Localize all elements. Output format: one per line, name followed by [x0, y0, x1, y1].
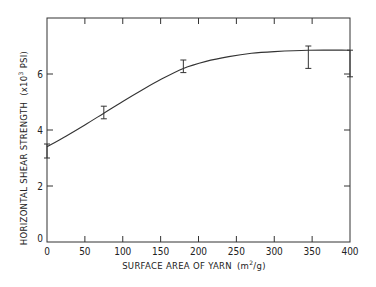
x-tick-label: 250	[228, 246, 245, 257]
chart: 050100150200250300350400 0246 SURFACE AR…	[0, 0, 376, 287]
x-tick-label: 400	[341, 246, 358, 257]
series-line	[47, 50, 350, 147]
x-axis-ticks: 050100150200250300350400	[44, 18, 359, 257]
y-tick-label: 6	[37, 69, 43, 80]
x-tick-label: 200	[190, 246, 207, 257]
x-tick-label: 50	[79, 246, 91, 257]
y-tick-label: 4	[37, 125, 43, 136]
x-tick-label: 100	[114, 246, 131, 257]
data-curve	[47, 50, 350, 147]
x-tick-label: 350	[304, 246, 321, 257]
x-tick-label: 0	[44, 246, 50, 257]
error-bars	[44, 46, 353, 158]
y-tick-label: 0	[37, 233, 43, 244]
x-tick-label: 300	[266, 246, 283, 257]
y-tick-label: 2	[37, 181, 43, 192]
y-axis-label: HORIZONTAL SHEAR STRENGTH (x103 PSI)	[17, 51, 29, 245]
error-bar	[180, 60, 186, 73]
error-bar	[305, 46, 311, 68]
error-bar	[347, 50, 353, 77]
y-axis-ticks: 0246	[37, 69, 350, 244]
plot-frame	[47, 18, 350, 242]
x-tick-label: 150	[152, 246, 169, 257]
x-axis-label: SURFACE AREA OF YARN (m2/g)	[122, 259, 266, 271]
